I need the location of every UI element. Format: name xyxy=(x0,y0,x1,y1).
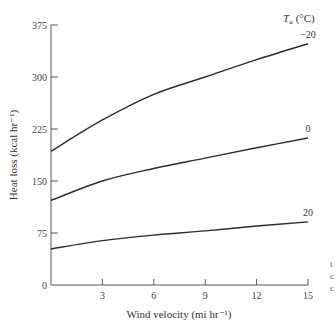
y-tick-label: 225 xyxy=(32,124,47,135)
x-tick-label: 15 xyxy=(303,290,313,301)
series-labels: −20020 xyxy=(300,29,316,218)
y-axis-title: Heat loss (kcal hr⁻¹) xyxy=(7,110,20,201)
x-tick-label: 12 xyxy=(252,290,262,301)
y-tick-label: 0 xyxy=(42,280,47,291)
legend-title-subscript: a xyxy=(289,18,293,26)
tick-marks: 0751502253003753691215 xyxy=(32,20,313,302)
data-curves xyxy=(51,44,308,249)
y-tick-label: 375 xyxy=(32,20,47,31)
legend-title-unit: (°C) xyxy=(296,12,315,25)
legend-title: Ta(°C) xyxy=(283,12,315,26)
cropped-caption-fragment: c xyxy=(330,283,336,293)
cropped-caption-fragment: t xyxy=(330,259,336,269)
series-label--20: −20 xyxy=(300,29,316,40)
x-tick-label: 3 xyxy=(100,290,105,301)
curve-ta-20 xyxy=(51,222,308,249)
x-axis-title: Wind velocity (mi hr⁻¹) xyxy=(126,308,231,321)
series-label-20: 20 xyxy=(303,207,313,218)
y-tick-label: 75 xyxy=(37,228,47,239)
x-tick-label: 9 xyxy=(203,290,208,301)
cropped-caption-fragment: c xyxy=(330,271,336,281)
curve-ta-0 xyxy=(51,138,308,200)
axes xyxy=(51,25,308,285)
curve-ta--20 xyxy=(51,44,308,151)
series-label-0: 0 xyxy=(306,123,311,134)
y-tick-label: 150 xyxy=(32,176,47,187)
y-tick-label: 300 xyxy=(32,72,47,83)
chart-canvas: 0751502253003753691215 −20020 Wind veloc… xyxy=(0,0,336,330)
x-tick-label: 6 xyxy=(151,290,156,301)
